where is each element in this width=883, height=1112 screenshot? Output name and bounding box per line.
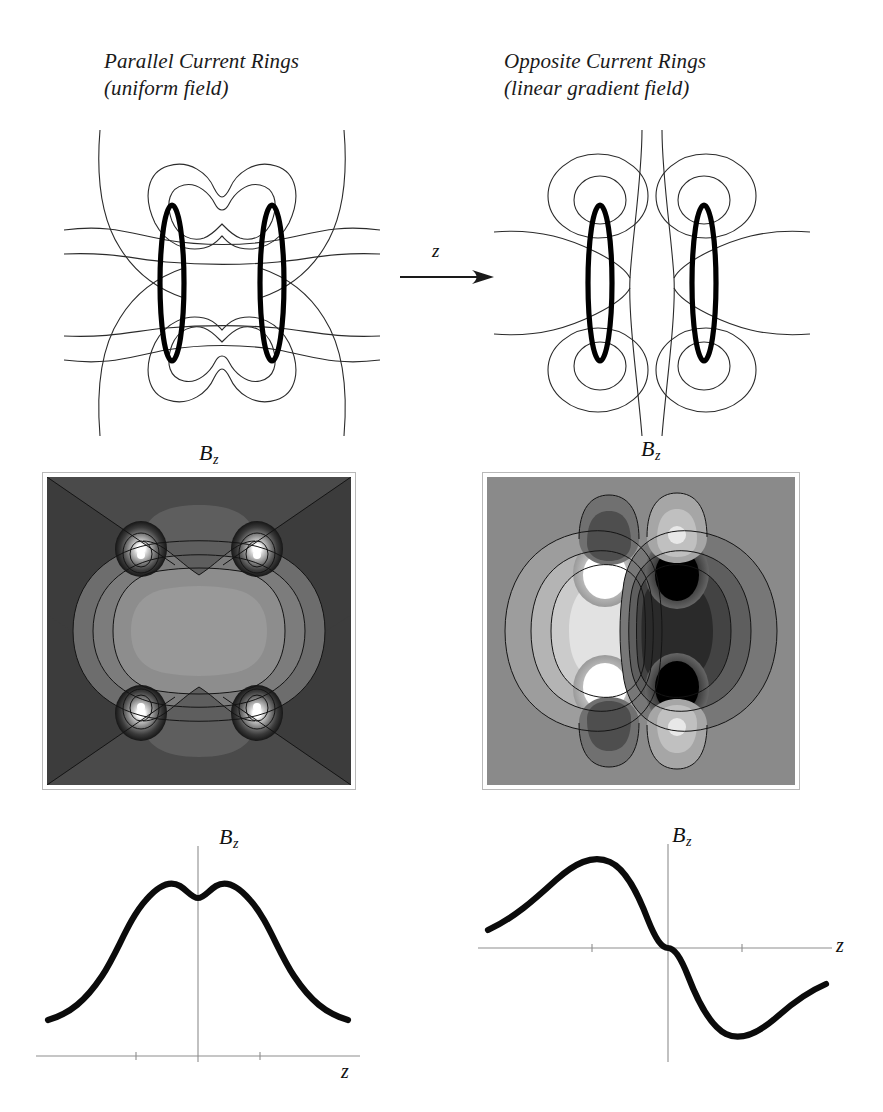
bz-symbol: B (199, 440, 212, 465)
arrow-svg (398, 262, 494, 292)
bz-symbol: B (641, 436, 654, 461)
z-axis-label-profile-parallel: z (341, 1060, 349, 1083)
contour-svg-parallel (47, 477, 351, 785)
figure-root: Parallel Current Rings (uniform field) O… (0, 0, 883, 1112)
current-ring-left (588, 205, 612, 361)
current-ring-left (160, 205, 184, 361)
field-line-svg-opposite (492, 128, 812, 438)
field-line-diagram-parallel (62, 128, 382, 438)
bz-symbol: B (219, 824, 232, 849)
transition-arrow (398, 262, 494, 292)
column-title-parallel: Parallel Current Rings (uniform field) (104, 48, 299, 102)
bz-label-contour-opposite: Bz (641, 436, 660, 464)
bz-label-profile-parallel: Bz (219, 824, 238, 852)
field-lines-opposite-group (494, 130, 810, 436)
bz-subscript: z (233, 836, 238, 851)
bz-label-profile-opposite: Bz (672, 822, 691, 850)
bz-symbol: B (672, 822, 685, 847)
field-lines-parallel-group (64, 130, 380, 436)
profile-svg-parallel (28, 824, 368, 1084)
bz-label-contour-parallel: Bz (199, 440, 218, 468)
contour-levels-parallel (47, 477, 351, 785)
profile-plot-parallel (28, 824, 368, 1084)
contour-map-parallel (42, 472, 356, 790)
bz-subscript: z (686, 834, 691, 849)
profile-plot-opposite (470, 824, 840, 1084)
contour-levels-opposite (487, 477, 795, 785)
cut-off-heading-remnant (150, 0, 570, 4)
bz-subscript: z (213, 452, 218, 467)
current-ring-right (692, 205, 716, 361)
field-line-diagram-opposite (492, 128, 812, 438)
contour-map-opposite (482, 472, 800, 790)
arrow-axis-label: z (432, 240, 439, 262)
current-ring-right (260, 205, 284, 361)
column-title-opposite: Opposite Current Rings (linear gradient … (504, 48, 706, 102)
field-line-svg-parallel (62, 128, 382, 438)
profile-svg-opposite (470, 824, 840, 1084)
z-axis-label-profile-opposite: z (836, 934, 844, 957)
bz-subscript: z (655, 448, 660, 463)
contour-svg-opposite (487, 477, 795, 785)
